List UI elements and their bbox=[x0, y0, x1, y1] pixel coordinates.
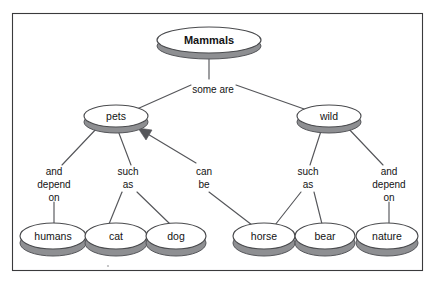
edge-label-line-1: and bbox=[381, 166, 398, 177]
node-humans-label: humans bbox=[34, 230, 71, 242]
edge-label-line-3: on bbox=[383, 192, 394, 203]
edge-label-group: some are and depend on such as can be su… bbox=[37, 84, 405, 203]
arrowhead-icon bbox=[138, 128, 152, 140]
edge-label-line-2: be bbox=[198, 179, 210, 190]
node-dog[interactable]: dog bbox=[146, 223, 206, 256]
edge-label-line-2: depend bbox=[37, 179, 70, 190]
node-pets[interactable]: pets bbox=[84, 105, 148, 133]
edge-label-line-1: and bbox=[46, 166, 63, 177]
edge-pets-to-and-depend-on bbox=[62, 127, 98, 165]
node-nature[interactable]: nature bbox=[356, 223, 418, 256]
edge-such-as-to-dog bbox=[137, 192, 170, 224]
edge-some-are-to-pets bbox=[137, 85, 191, 109]
node-bear[interactable]: bear bbox=[295, 223, 355, 256]
node-wild[interactable]: wild bbox=[297, 105, 361, 133]
edge-such-as-to-bear bbox=[314, 192, 322, 224]
edge-label-such-as-right: such as bbox=[297, 166, 318, 190]
node-mammals-label: Mammals bbox=[184, 34, 234, 46]
node-bear-label: bear bbox=[314, 230, 336, 242]
edge-label-line-2: as bbox=[123, 179, 134, 190]
node-nature-label: nature bbox=[372, 230, 402, 242]
edge-can-be-to-pets bbox=[146, 133, 196, 163]
edge-some-are-to-wild bbox=[236, 85, 307, 110]
node-dog-label: dog bbox=[167, 230, 185, 242]
edge-wild-to-such-as bbox=[310, 128, 322, 165]
edge-label-and-depend-on-left: and depend on bbox=[37, 166, 70, 203]
node-horse[interactable]: horse bbox=[233, 223, 295, 256]
edge-label-line-1: can bbox=[196, 166, 212, 177]
node-horse-label: horse bbox=[251, 230, 277, 242]
edge-such-as-to-cat bbox=[109, 192, 122, 224]
node-cat-label: cat bbox=[109, 230, 123, 242]
edge-label-line-2: as bbox=[303, 179, 314, 190]
edge-such-as-to-horse bbox=[275, 192, 301, 225]
edge-can-be-to-horse bbox=[209, 192, 252, 225]
edge-label-and-depend-on-right: and depend on bbox=[372, 166, 405, 203]
edge-label-such-as-left: such as bbox=[117, 166, 138, 190]
concept-map-svg: Mammals pets wild humans cat bbox=[0, 0, 436, 286]
edge-label-some-are: some are bbox=[192, 84, 234, 95]
edge-label-line-2: depend bbox=[372, 179, 405, 190]
node-mammals[interactable]: Mammals bbox=[157, 27, 261, 59]
edge-label-line-3: on bbox=[48, 192, 59, 203]
edge-label-line-1: such bbox=[117, 166, 138, 177]
diagram-canvas: Mammals pets wild humans cat bbox=[0, 0, 436, 286]
edge-pets-to-such-as bbox=[117, 128, 131, 165]
node-pets-label: pets bbox=[106, 110, 126, 122]
edge-wild-to-and-depend-on bbox=[347, 127, 383, 165]
node-cat[interactable]: cat bbox=[85, 223, 147, 256]
edge-group bbox=[54, 56, 389, 225]
edge-label-can-be: can be bbox=[196, 166, 212, 190]
node-humans[interactable]: humans bbox=[20, 223, 86, 256]
edge-label-line-1: such bbox=[297, 166, 318, 177]
scan-speck bbox=[107, 265, 109, 267]
node-wild-label: wild bbox=[319, 110, 338, 122]
